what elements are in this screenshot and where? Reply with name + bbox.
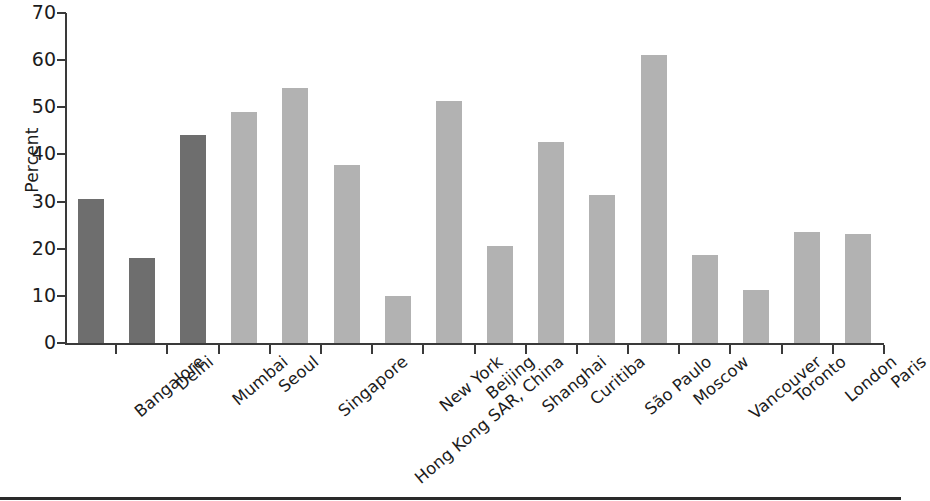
y-axis-line xyxy=(65,13,67,343)
x-tick-mark xyxy=(883,345,885,354)
x-tick-label: Singapore xyxy=(335,352,412,421)
y-tick-mark xyxy=(57,153,66,155)
x-tick-label: Toronto xyxy=(790,352,849,406)
x-tick-mark xyxy=(320,345,322,354)
plot-area xyxy=(65,13,884,343)
bar xyxy=(692,255,718,343)
bar xyxy=(641,55,667,343)
x-tick-mark xyxy=(371,345,373,354)
x-tick-mark xyxy=(166,345,168,354)
page-bottom-rule xyxy=(0,497,901,500)
bar xyxy=(538,142,564,343)
y-tick-label: 30 xyxy=(20,192,56,211)
x-tick-label: Curitiba xyxy=(587,352,650,409)
y-tick-label: 10 xyxy=(20,286,56,305)
bar xyxy=(282,88,308,343)
x-tick-mark xyxy=(525,345,527,354)
x-tick-label: São Paulo xyxy=(641,352,715,419)
x-tick-mark xyxy=(781,345,783,354)
y-tick-label: 0 xyxy=(20,333,56,352)
y-tick-label: 70 xyxy=(20,3,56,22)
x-tick-label: London xyxy=(842,352,901,406)
y-tick-mark xyxy=(57,342,66,344)
y-tick-label: 60 xyxy=(20,50,56,69)
x-tick-label: Moscow xyxy=(689,352,752,409)
x-tick-label: Delhi xyxy=(172,352,217,394)
x-tick-mark xyxy=(218,345,220,354)
x-tick-label: Hong Kong SAR, China xyxy=(411,352,567,487)
y-tick-label: 20 xyxy=(20,239,56,258)
x-tick-mark xyxy=(729,345,731,354)
y-tick-mark xyxy=(57,59,66,61)
x-tick-label: Bangalore xyxy=(130,352,207,421)
bar xyxy=(231,112,257,343)
bar xyxy=(129,258,155,343)
x-tick-mark xyxy=(115,345,117,354)
x-tick-label: Shanghai xyxy=(538,352,610,417)
bar xyxy=(385,296,411,343)
bar xyxy=(334,165,360,343)
x-tick-mark xyxy=(678,345,680,354)
x-tick-label: New York xyxy=(436,352,507,416)
x-tick-mark xyxy=(269,345,271,354)
bar xyxy=(743,290,769,343)
x-tick-mark xyxy=(832,345,834,354)
x-tick-label: Paris xyxy=(888,352,930,392)
y-tick-mark xyxy=(57,248,66,250)
y-tick-label: 40 xyxy=(20,144,56,163)
bar xyxy=(589,195,615,343)
x-tick-label: Seoul xyxy=(275,352,323,396)
x-tick-mark xyxy=(474,345,476,354)
bar xyxy=(78,199,104,343)
x-tick-label: Vancouver xyxy=(745,352,824,423)
bar xyxy=(794,232,820,343)
bar xyxy=(487,246,513,343)
bar xyxy=(180,135,206,343)
y-tick-label: 50 xyxy=(20,97,56,116)
bar xyxy=(436,101,462,343)
x-tick-label: Beijing xyxy=(482,352,538,403)
x-tick-label: Mumbai xyxy=(229,352,292,409)
x-tick-mark xyxy=(627,345,629,354)
x-tick-mark xyxy=(576,345,578,354)
y-tick-mark xyxy=(57,295,66,297)
y-tick-mark xyxy=(57,201,66,203)
y-tick-mark xyxy=(57,106,66,108)
y-axis-tick-labels: 010203040506070 xyxy=(12,0,56,360)
x-tick-mark xyxy=(422,345,424,354)
y-tick-mark xyxy=(57,12,66,14)
bar xyxy=(845,234,871,343)
